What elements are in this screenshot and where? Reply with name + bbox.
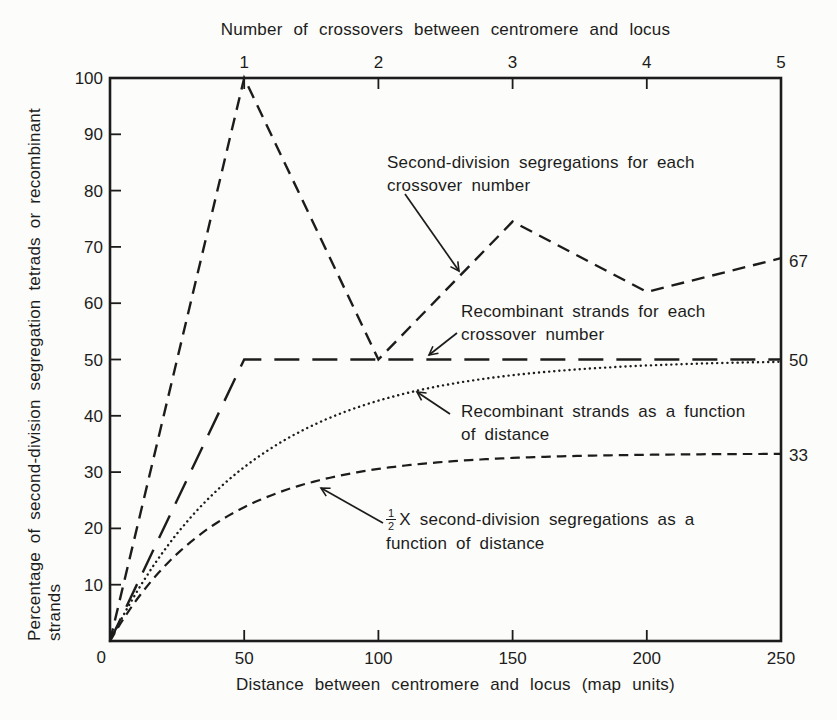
fraction-numerator: 1 [386, 508, 396, 519]
annotation-line: of distance [461, 423, 745, 446]
right-value-label: 50 [789, 351, 808, 370]
x-tick-label: 200 [633, 649, 661, 668]
y-axis-title-line2: strands [45, 78, 65, 641]
annotation-recombinant-vs-distance: Recombinant strands as a function of dis… [461, 400, 745, 446]
fraction-denominator: 2 [386, 519, 396, 532]
y-tick-label: 10 [84, 576, 103, 595]
annotation-line: crossover number [387, 174, 695, 197]
annotation-arrow-recombinant-vs-distance-label [417, 392, 450, 414]
right-value-label: 67 [789, 252, 808, 271]
annotation-line: Second-division segregations for each [387, 151, 695, 174]
annotation-line: function of distance [386, 532, 695, 555]
top-axis-title: Number of crossovers between centromere … [110, 20, 781, 40]
top-tick-label: 4 [642, 53, 651, 72]
annotation-half-sds-vs-distance: 12X second-division segregations as a fu… [386, 508, 695, 555]
annotation-line: 12X second-division segregations as a [386, 508, 695, 532]
right-value-label: 33 [789, 446, 808, 465]
annotation-arrow-sds-per-crossover-label [405, 194, 459, 271]
annotation-text: X second-division segregations as a [399, 510, 694, 529]
annotation-recombinant-per-crossover: Recombinant strands for each crossover n… [461, 300, 705, 346]
top-tick-label: 3 [508, 53, 517, 72]
x-axis-title: Distance between centromere and locus (m… [120, 675, 791, 695]
y-tick-label: 70 [84, 238, 103, 257]
y-axis-title: Percentage of second-division segregatio… [25, 78, 65, 641]
y-tick-label: 20 [84, 519, 103, 538]
y-tick-label: 100 [75, 69, 103, 88]
annotation-line: Recombinant strands as a function [461, 400, 745, 423]
origin-tick-label: 0 [97, 648, 106, 667]
top-tick-label: 1 [239, 53, 248, 72]
annotation-arrow-recombinant-per-crossover-label [429, 333, 457, 355]
top-tick-label: 2 [374, 53, 383, 72]
one-half-fraction: 12 [386, 508, 396, 532]
y-tick-label: 30 [84, 463, 103, 482]
x-tick-label: 50 [235, 649, 254, 668]
chart-canvas: 5010015020025001234510090807060504030201… [0, 0, 837, 720]
top-tick-label: 5 [776, 53, 785, 72]
x-tick-label: 250 [767, 649, 795, 668]
x-tick-label: 150 [498, 649, 526, 668]
annotation-line: Recombinant strands for each [461, 300, 705, 323]
y-tick-label: 50 [84, 351, 103, 370]
y-tick-label: 90 [84, 125, 103, 144]
annotation-sds-per-crossover: Second-division segregations for each cr… [387, 151, 695, 197]
annotation-line: crossover number [461, 323, 705, 346]
x-tick-label: 100 [364, 649, 392, 668]
y-axis-title-line1: Percentage of second-division segregatio… [25, 78, 45, 641]
y-tick-label: 40 [84, 407, 103, 426]
figure: 5010015020025001234510090807060504030201… [0, 0, 837, 720]
y-tick-label: 60 [84, 294, 103, 313]
y-tick-label: 80 [84, 182, 103, 201]
annotation-arrow-half-sds-vs-distance-label [321, 488, 383, 523]
